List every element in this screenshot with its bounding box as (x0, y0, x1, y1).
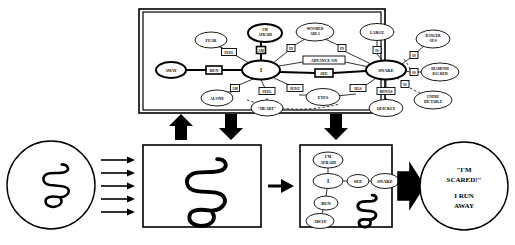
interpretation-panel[interactable]: I'M AFRAID I SEE SNAKE RUN AWAY (300, 145, 399, 229)
node-label-line1: UNPRE (427, 95, 440, 99)
relation-am-afraid[interactable]: AM (257, 47, 266, 54)
node-label: SEE (354, 179, 363, 184)
interp-node-snake[interactable]: SNAKE (371, 174, 399, 189)
node-unpredictable[interactable]: UNPRE DICTABLE (414, 91, 452, 109)
relation-label: ADVANCE ON (311, 58, 338, 63)
transition-arrow (268, 179, 294, 193)
node-label-line1: I'M (262, 28, 268, 32)
response-line-2: SCARED!" (447, 176, 482, 184)
interp-node-see[interactable]: SEE (347, 175, 369, 188)
percept-panel[interactable] (143, 145, 261, 227)
node-fear[interactable]: FEAR (195, 32, 227, 48)
node-label-line1: DANGER (425, 34, 441, 38)
arrow-down-to-interp (324, 114, 348, 140)
stimulus-arrows (101, 157, 135, 216)
relation-label: HAS (354, 87, 361, 91)
node-label: RUN (321, 201, 331, 206)
relation-label: HAVE (290, 87, 300, 91)
node-im-afraid[interactable]: I'M AFRAID (248, 24, 282, 42)
arrow-right-3 (101, 183, 135, 190)
node-label-line1: DIAMOND (431, 67, 449, 71)
arrow-right-2 (101, 170, 135, 177)
relation-label: AM (232, 87, 239, 91)
relation-have-eyes[interactable]: HAVE (287, 85, 303, 92)
relation-label: FEEL (224, 51, 234, 55)
node-label: I (327, 178, 329, 184)
node-away[interactable]: AWAY (156, 62, 186, 78)
relation-label: FEEL (262, 90, 272, 94)
relation-label: IS (403, 83, 406, 87)
relation-is-diamond[interactable]: IS (410, 69, 418, 76)
relation-moves[interactable]: MOVES (377, 88, 395, 95)
node-eyes[interactable]: EYES (306, 89, 340, 106)
node-label-line2: AREA (310, 32, 320, 36)
relation-in-left[interactable]: IN (287, 45, 295, 52)
arrow-right-1 (101, 157, 135, 164)
interp-node-run[interactable]: RUN (314, 196, 338, 210)
relation-am-alone[interactable]: AM (231, 85, 240, 92)
node-large[interactable]: LARGE (360, 24, 394, 41)
stimulus-circle[interactable] (7, 141, 95, 229)
arrow-up-to-network (169, 114, 193, 140)
node-label-line2: AFRAID (320, 160, 336, 165)
response-line-1: "I'M (456, 166, 472, 174)
figure-canvas: AWAY FEAR I'M AFRAID WOODED AREA (0, 0, 515, 245)
relation-run[interactable]: RUN (206, 66, 222, 74)
relation-feel-fear[interactable]: FEEL (222, 49, 237, 56)
relation-advance-on[interactable]: ADVANCE ON (303, 56, 345, 64)
node-alone[interactable]: ALONE (201, 90, 233, 106)
relation-label: AM (258, 49, 265, 53)
interp-node-im-afraid[interactable]: I'M AFRAID (313, 152, 343, 168)
node-label: AWAY (314, 219, 328, 224)
connector-arrows (169, 114, 348, 140)
node-label: FEAR (206, 38, 217, 43)
node-wooded-area[interactable]: WOODED AREA (296, 23, 334, 41)
arrow-right-4 (101, 196, 135, 203)
arrow-down-to-percept (219, 114, 243, 140)
response-line-3: I RUN (454, 192, 474, 200)
arrow-right-5 (101, 209, 135, 216)
relation-label: SEE (320, 71, 328, 76)
node-label: SNAKE (377, 179, 393, 184)
node-label: I (260, 67, 262, 73)
relation-is-large[interactable]: IS (373, 47, 381, 54)
relation-label: IS (412, 54, 415, 58)
relation-is-unpredictable[interactable]: IS (401, 81, 409, 88)
relation-label: RUN (210, 68, 219, 73)
node-label: "HEART" (258, 106, 277, 111)
node-label: LARGE (370, 30, 385, 35)
node-label: AWAY (165, 68, 177, 73)
node-label: SNAKE (378, 68, 394, 73)
node-quickly[interactable]: QUICKLY (369, 100, 403, 117)
relation-is-dangerous[interactable]: IS (410, 52, 418, 59)
relation-label: IN (340, 47, 344, 51)
relation-label: IN (289, 47, 293, 51)
response-line-4: AWAY (454, 202, 474, 210)
relation-label: IS (375, 49, 378, 53)
relation-label: MOVES (380, 90, 393, 94)
node-label: EYES (318, 95, 329, 100)
relation-has-eyes[interactable]: HAS (350, 85, 366, 92)
node-dangerous[interactable]: DANGER OUS (416, 30, 450, 48)
semantic-network-panel: AWAY FEAR I'M AFRAID WOODED AREA (139, 9, 459, 117)
diagram-root: AWAY FEAR I'M AFRAID WOODED AREA (0, 0, 515, 245)
node-label-line2: OUS (429, 39, 436, 43)
node-label-line2: BACKED (433, 72, 448, 76)
relation-in-right[interactable]: IN (338, 45, 346, 52)
relation-feel-heart[interactable]: FEEL (259, 88, 275, 95)
node-label-line2: AFRAID (258, 33, 272, 37)
node-i[interactable]: I (242, 61, 280, 80)
node-heart[interactable]: "HEART" (251, 100, 283, 116)
node-label: QUICKLY (377, 106, 396, 111)
interp-node-i[interactable]: I (313, 174, 343, 189)
node-label-line1: WOODED (307, 27, 324, 31)
node-label-line2: DICTABLE (424, 100, 443, 104)
node-label: ALONE (210, 96, 225, 101)
relation-label: IS (412, 71, 415, 75)
response-circle[interactable]: "I'M SCARED!" I RUN AWAY (420, 142, 508, 230)
relation-see[interactable]: SEE (315, 69, 333, 77)
node-snake[interactable]: SNAKE (366, 61, 406, 80)
interp-node-away[interactable]: AWAY (306, 214, 334, 229)
node-diamond-backed[interactable]: DIAMOND BACKED (421, 63, 459, 81)
